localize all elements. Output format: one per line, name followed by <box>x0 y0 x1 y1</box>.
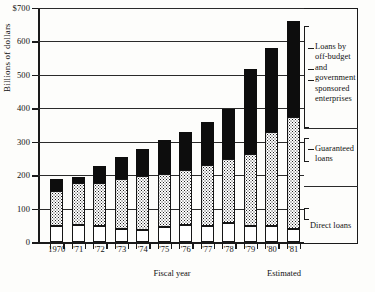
offbudget-leader-3 <box>308 80 314 81</box>
bar-segment-guar <box>179 170 192 224</box>
x-axis-tick-label: '73 <box>116 244 126 254</box>
bar-segment-offb <box>244 69 257 154</box>
offbudget-leader-1 <box>308 48 314 49</box>
y-axis-title: Billions of dollars <box>2 23 12 92</box>
bar-78 <box>222 109 235 242</box>
y-axis-tick-label: 500 <box>17 70 30 80</box>
bar-segment-offb <box>115 157 128 179</box>
bar-segment-direct <box>72 225 85 243</box>
bar-segment-direct <box>222 223 235 242</box>
bar-segment-direct <box>201 226 214 243</box>
bar-74 <box>136 149 149 242</box>
x-axis-tick <box>85 244 86 249</box>
offbudget-bracket <box>304 26 309 128</box>
x-axis-tick-label: '78 <box>224 244 234 254</box>
x-axis-tick-label: '77 <box>202 244 212 254</box>
bar-segment-direct <box>244 226 257 242</box>
plot-area: $7006005004003002001000 <box>38 8 304 244</box>
bar-segment-guar <box>201 165 214 225</box>
bar-segment-direct <box>287 229 300 242</box>
legend: Loans by off-budget and government spons… <box>304 8 358 244</box>
bar-segment-guar <box>244 154 257 226</box>
bar-segment-offb <box>136 149 149 176</box>
bar-segment-guar <box>222 159 235 223</box>
bar-77 <box>201 122 214 243</box>
bar-72 <box>93 166 106 242</box>
legend-divider-lower <box>304 186 358 187</box>
bar-71 <box>72 177 85 243</box>
bar-75 <box>158 140 171 242</box>
bar-segment-guar <box>158 174 171 228</box>
x-axis-tick <box>257 244 258 249</box>
y-axis-tick-label: 300 <box>17 137 30 147</box>
x-axis-tick <box>235 244 236 249</box>
x-axis-tick <box>278 244 279 249</box>
bar-73 <box>115 157 128 242</box>
bar-segment-direct <box>93 226 106 243</box>
y-axis-tick-label: 100 <box>17 204 30 214</box>
legend-divider-upper <box>304 128 358 129</box>
y-axis-tick-label: 200 <box>17 170 30 180</box>
y-axis-tick-label: 400 <box>17 103 30 113</box>
bar-81 <box>287 21 300 242</box>
bar-segment-guar <box>50 191 63 226</box>
x-axis-tick <box>149 244 150 249</box>
bar-segment-direct <box>115 229 128 242</box>
bar-segment-offb <box>201 122 214 166</box>
x-axis-tick-label: 1970 <box>48 244 65 254</box>
y-axis-tick-label: 600 <box>17 36 30 46</box>
x-axis-tick-label: '79 <box>245 244 255 254</box>
bar-segment-guar <box>115 179 128 229</box>
bar-segment-offb <box>179 132 192 171</box>
x-axis-tick <box>192 244 193 249</box>
bar-76 <box>179 132 192 243</box>
bar-segment-guar <box>265 132 278 226</box>
y-axis-tick-label: $700 <box>13 3 30 13</box>
bar-segment-offb <box>222 109 235 159</box>
y-axis-tick-label: 0 <box>26 237 30 247</box>
x-axis-tick-label: '76 <box>181 244 191 254</box>
x-axis-tick-label: '72 <box>95 244 105 254</box>
bar-79 <box>244 69 257 242</box>
bar-segment-direct <box>158 227 171 242</box>
bar-series-layer <box>38 8 304 244</box>
bar-segment-offb <box>50 179 63 191</box>
loan-activity-stacked-bar-chart: $7006005004003002001000 Billions of doll… <box>0 0 375 292</box>
x-axis-tick <box>300 244 301 249</box>
x-axis-title: Fiscal year <box>153 268 190 278</box>
x-axis-tick <box>128 244 129 249</box>
x-axis-tick <box>106 244 107 249</box>
bar-segment-guar <box>93 183 106 226</box>
estimated-annotation: Estimated <box>267 268 301 278</box>
bar-80 <box>265 48 278 242</box>
bar-segment-direct <box>265 226 278 243</box>
bar-segment-offb <box>287 21 300 116</box>
bar-segment-offb <box>72 177 85 183</box>
offbudget-leader-2 <box>308 69 314 70</box>
bar-segment-direct <box>136 230 149 243</box>
bar-segment-offb <box>158 140 171 173</box>
bar-segment-offb <box>265 48 278 132</box>
bar-segment-direct <box>179 225 192 243</box>
x-axis-tick <box>214 244 215 249</box>
bar-segment-offb <box>93 166 106 183</box>
bar-segment-guar <box>72 183 85 225</box>
bar-segment-direct <box>50 226 63 243</box>
bar-segment-guar <box>136 176 149 230</box>
x-axis-tick <box>171 244 172 249</box>
guaranteed-leader <box>308 149 314 150</box>
legend-label-offbudget: Loans by off-budget and government spons… <box>315 42 361 104</box>
bar-1970 <box>50 179 63 243</box>
x-axis-tick-label: '71 <box>73 244 83 254</box>
x-axis-tick-label: '75 <box>159 244 169 254</box>
x-axis-tick-label: '81 <box>288 244 298 254</box>
x-axis-tick-label: '80 <box>267 244 277 254</box>
x-axis-tick-label: '74 <box>138 244 148 254</box>
direct-bracket <box>304 208 309 220</box>
bar-segment-guar <box>287 117 300 229</box>
legend-label-direct: Direct loans <box>310 221 362 231</box>
legend-label-guaranteed: Guaranteed loans <box>315 144 361 165</box>
